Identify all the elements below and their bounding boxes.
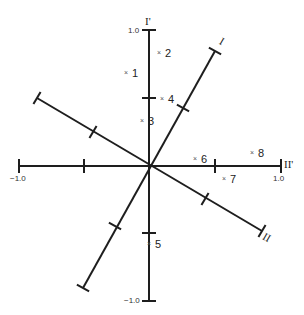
axis-tick-ii [33,92,40,104]
tick-label-right: 1.0 [273,175,284,183]
point-marker-7: × [222,175,226,182]
point-label-3: 3 [148,116,154,127]
axis-tick-i [209,48,221,55]
tick-label-left: −1.0 [10,175,26,183]
point-marker-1: × [124,69,128,76]
axis-label-ii-prime: II' [284,159,293,170]
point-label-6: 6 [201,154,207,165]
point-label-7: 7 [230,174,236,185]
point-marker-2: × [157,49,161,56]
point-marker-6: × [193,155,197,162]
point-marker-8: × [250,149,254,156]
point-label-8: 8 [258,148,264,159]
tick-label-bottom: −1.0 [124,297,140,305]
point-label-5: 5 [155,239,161,250]
point-marker-3: × [140,117,144,124]
factor-rotation-diagram: 1.0 −1.0 −1.0 1.0 I' II' I II ×1×2×3×4×5… [0,0,304,315]
point-label-1: 1 [132,68,138,79]
point-label-4: 4 [168,94,174,105]
axis-label-i-prime: I' [145,16,151,27]
tick-label-top: 1.0 [128,27,139,35]
axis-tick-i [77,285,89,292]
point-marker-4: × [160,95,164,102]
point-marker-5: × [147,240,151,247]
point-label-2: 2 [165,48,171,59]
